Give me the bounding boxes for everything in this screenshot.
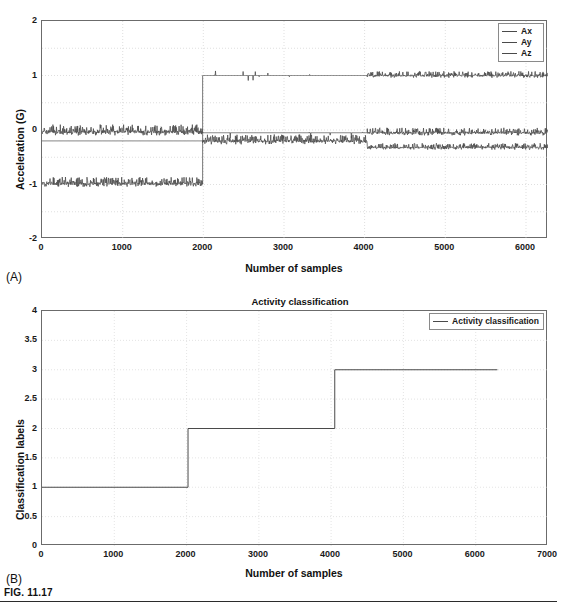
panel-a-xlabel: Number of samples xyxy=(194,262,394,274)
panel-a-ytick: -2 xyxy=(13,234,37,243)
panel-a-ytick: 1 xyxy=(13,71,37,80)
panel-b-xtick: 4000 xyxy=(310,550,350,559)
panel-b-ytick: 4 xyxy=(10,306,37,315)
panel-b-xtick: 0 xyxy=(21,550,61,559)
figure-caption: FIG. 11.17 xyxy=(4,587,53,598)
legend-line-icon xyxy=(433,321,448,322)
panel-b-ylabel: Classification labels xyxy=(14,419,26,520)
legend-line-icon xyxy=(502,53,517,54)
panel-a-plot-area: Ax Ay Az xyxy=(41,20,547,238)
panel-b-xtick: 2000 xyxy=(166,550,206,559)
panel-b-ytick: 3 xyxy=(10,365,37,374)
legend-item-activity: Activity classification xyxy=(433,316,539,327)
panel-b-svg xyxy=(42,311,548,546)
panel-a-traces xyxy=(42,71,548,187)
legend-line-icon xyxy=(502,31,517,32)
panel-b-ytick: 2.5 xyxy=(10,394,37,403)
panel-b-ytick: 2 xyxy=(10,424,37,433)
panel-a-xtick: 1000 xyxy=(102,243,142,252)
panel-b-xtick: 7000 xyxy=(527,550,562,559)
panel-b-letter: (B) xyxy=(6,572,22,586)
panel-a-xtick: 3000 xyxy=(263,243,303,252)
panel-a-svg xyxy=(42,21,548,239)
panel-a-xtick: 6000 xyxy=(505,243,545,252)
legend-label-activity: Activity classification xyxy=(452,317,539,326)
panel-a-xtick: 2000 xyxy=(182,243,222,252)
panel-b: Activity classification Classification l… xyxy=(0,295,557,585)
panel-b-xtick: 5000 xyxy=(382,550,422,559)
panel-a-xtick: 4000 xyxy=(344,243,384,252)
panel-a-xtick: 0 xyxy=(21,243,61,252)
panel-b-ytick: 1.5 xyxy=(10,453,37,462)
panel-b-ytick: 3.5 xyxy=(10,335,37,344)
legend-label-ax: Ax xyxy=(521,27,532,36)
panel-b-xtick: 3000 xyxy=(238,550,278,559)
panel-a-xtick: 5000 xyxy=(424,243,464,252)
legend-line-icon xyxy=(502,42,517,43)
legend-item-az: Az xyxy=(502,48,539,59)
legend-item-ax: Ax xyxy=(502,26,539,37)
panel-a-ytick: 2 xyxy=(13,16,37,25)
legend-label-ay: Ay xyxy=(521,38,532,47)
panel-b-title: Activity classification xyxy=(180,296,420,307)
panel-a-legend: Ax Ay Az xyxy=(498,23,544,62)
panel-b-xtick: 6000 xyxy=(455,550,495,559)
legend-item-ay: Ay xyxy=(502,37,539,48)
panel-b-xlabel: Number of samples xyxy=(194,567,394,579)
caption-divider xyxy=(0,601,557,602)
panel-a-ytick: 0 xyxy=(13,125,37,134)
panel-b-ytick: 0 xyxy=(10,541,37,550)
panel-a-letter: (A) xyxy=(6,270,22,284)
panel-b-plot-area: Activity classification xyxy=(41,310,547,545)
panel-a: Acceleration (G) xyxy=(0,0,557,295)
panel-a-ytick: -1 xyxy=(13,180,37,189)
legend-label-az: Az xyxy=(521,49,531,58)
panel-b-ytick: 1 xyxy=(10,482,37,491)
panel-a-ylabel: Acceleration (G) xyxy=(14,109,26,190)
panel-b-ytick: 0.5 xyxy=(10,512,37,521)
panel-b-legend: Activity classification xyxy=(429,313,544,330)
panel-b-xtick: 1000 xyxy=(93,550,133,559)
